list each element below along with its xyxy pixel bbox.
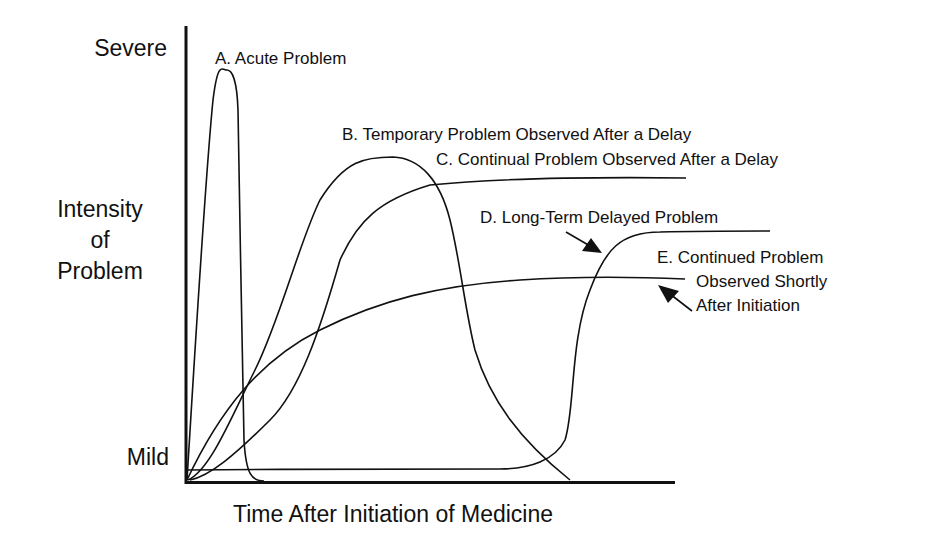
curve-b-temporary bbox=[188, 157, 570, 480]
y-axis-label-line2: of bbox=[90, 227, 110, 253]
curve-a-acute bbox=[187, 69, 264, 481]
y-tick-mild: Mild bbox=[127, 444, 169, 470]
arrow-d-icon bbox=[566, 232, 602, 253]
y-axis-label-line1: Intensity bbox=[57, 196, 143, 222]
label-e-line2: Observed Shortly bbox=[696, 272, 828, 291]
arrow-e-icon bbox=[658, 285, 692, 311]
label-a-acute: A. Acute Problem bbox=[215, 49, 346, 68]
label-d-long-term: D. Long-Term Delayed Problem bbox=[480, 208, 718, 227]
curve-e-continued bbox=[187, 277, 685, 480]
intensity-over-time-chart: Severe Mild Intensity of Problem Time Af… bbox=[0, 0, 938, 550]
y-tick-severe: Severe bbox=[94, 35, 167, 61]
label-e-line3: After Initiation bbox=[696, 296, 800, 315]
x-axis-label: Time After Initiation of Medicine bbox=[233, 501, 553, 527]
label-b-temporary: B. Temporary Problem Observed After a De… bbox=[342, 125, 692, 144]
y-axis-label-line3: Problem bbox=[57, 258, 143, 284]
label-e-line1: E. Continued Problem bbox=[657, 248, 823, 267]
label-c-continual: C. Continual Problem Observed After a De… bbox=[436, 150, 779, 169]
